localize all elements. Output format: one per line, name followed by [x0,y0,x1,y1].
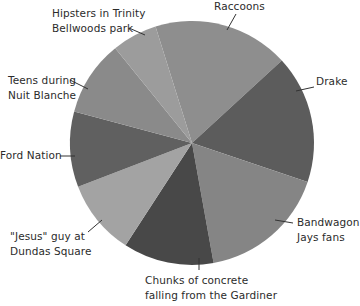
label-jesus: "Jesus" guy at Dundas Square [10,229,92,259]
pie-slices [70,21,314,265]
label-teens: Teens during Nuit Blanche [8,73,76,103]
label-ford: Ford Nation [0,148,62,163]
label-hipsters: Hipsters in Trinity Bellwoods park [52,6,145,36]
label-drake: Drake [316,74,348,89]
label-bandwagon: Bandwagon Jays fans [297,215,360,245]
label-raccoons: Raccoons [214,0,265,14]
label-chunks: Chunks of concrete falling from the Gard… [145,273,277,303]
